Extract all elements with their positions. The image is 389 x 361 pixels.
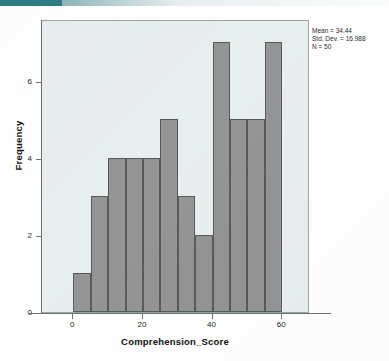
x-axis-tick [212,314,213,319]
histogram-bar [213,42,230,312]
x-axis-tick [72,314,73,319]
stat-std-dev: Std. Dev. = 16.988 [312,35,366,43]
plot-area [41,20,309,313]
histogram-bar [178,196,195,312]
y-axis-tick [36,159,41,160]
histogram-bar [265,42,282,312]
x-axis-tick-label: 20 [130,320,154,329]
y-axis-tick [36,313,41,314]
histogram-bars [42,21,308,312]
y-axis-line [41,20,42,314]
stat-mean: Mean = 34.44 [312,27,366,35]
histogram-bar [195,235,212,312]
stat-n: N = 50 [312,43,366,51]
y-axis-tick [36,236,41,237]
x-axis-tick-label: 40 [200,320,224,329]
y-axis-tick [36,82,41,83]
x-axis-tick-label: 0 [60,320,84,329]
x-axis-tick [281,314,282,319]
histogram-bar [91,196,108,312]
x-axis-title: Comprehension_Score [41,336,309,347]
x-axis-line [29,313,331,314]
y-axis-tick-label: 2 [6,231,32,240]
histogram-bar [126,158,143,312]
histogram-figure: 02460204060 Frequency Comprehension_Scor… [0,0,389,361]
histogram-bar [160,119,177,312]
histogram-bar [73,273,90,312]
histogram-bar [143,158,160,312]
x-axis-tick-label: 60 [269,320,293,329]
histogram-bar [230,119,247,312]
histogram-bar [108,158,125,312]
x-axis-tick [142,314,143,319]
y-axis-tick-label: 0 [6,308,32,317]
y-axis-title: Frequency [13,101,24,191]
y-axis-tick-label: 6 [6,77,32,86]
statistics-annotation: Mean = 34.44 Std. Dev. = 16.988 N = 50 [312,27,366,52]
histogram-bar [247,119,264,312]
